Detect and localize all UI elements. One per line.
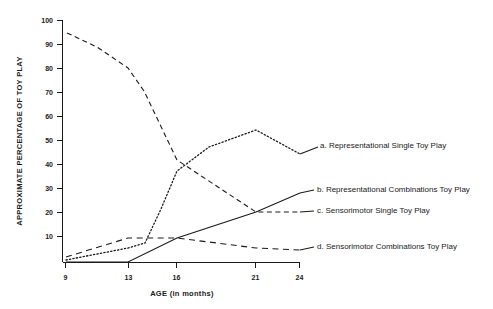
legend-item-d: d. Sensorimotor Combinations Toy Play [317,242,457,251]
chart-series-group [66,33,300,262]
x-tick-label-16: 16 [173,274,181,281]
series-line-c-sensorimotor-single [67,33,300,212]
legend-item-a: a. Representational Single Toy Play [320,141,446,150]
chart-axes [63,20,301,263]
leader-line-b [300,190,314,193]
y-tick-label-40: 40 [45,161,53,168]
series-line-d-sensorimotor-combinations [66,238,300,257]
x-axis-title: AGE (in months) [150,289,214,298]
chart-legend: a. Representational Single Toy Play b. R… [317,141,470,251]
leader-line-a [300,147,318,154]
y-axis-tick-labels: 100 90 80 70 60 50 40 30 20 10 [41,17,53,240]
y-tick-label-90: 90 [45,41,53,48]
y-tick-label-100: 100 [41,17,53,24]
legend-item-b: b. Representational Combinations Toy Pla… [317,185,470,194]
x-axis-ticks [66,263,300,269]
legend-leader-lines [300,147,318,250]
toy-play-line-chart: 100 90 80 70 60 50 40 30 20 10 9 13 16 2… [0,0,493,309]
y-axis-ticks [57,21,63,237]
y-tick-label-70: 70 [45,89,53,96]
leader-line-d [300,247,314,250]
x-axis-tick-labels: 9 13 16 21 24 [64,274,304,281]
chart-figure: 100 90 80 70 60 50 40 30 20 10 9 13 16 2… [0,0,493,309]
y-axis-title: APPROXIMATE PERCENTAGE OF TOY PLAY [15,56,24,225]
leader-line-c [300,211,314,212]
y-tick-label-60: 60 [45,113,53,120]
y-tick-label-10: 10 [45,233,53,240]
y-tick-label-20: 20 [45,209,53,216]
series-line-a-representational-single [66,130,300,260]
y-tick-label-50: 50 [45,137,53,144]
x-tick-label-24: 24 [296,274,304,281]
x-tick-label-21: 21 [252,274,260,281]
series-line-b-representational-combinations [66,193,300,262]
x-tick-label-9: 9 [64,274,68,281]
y-tick-label-80: 80 [45,65,53,72]
x-tick-label-13: 13 [125,274,133,281]
y-tick-label-30: 30 [45,185,53,192]
legend-item-c: c. Sensorimotor Single Toy Play [317,206,430,215]
